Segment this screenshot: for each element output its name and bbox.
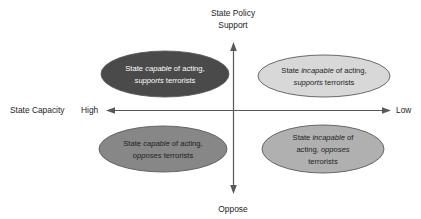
quadrant-top-right[interactable]: State incapable of acting, supports terr… xyxy=(258,55,390,97)
vertical-axis-arrow-up-icon xyxy=(230,42,237,51)
top-axis-title-line1: State Policy xyxy=(211,8,256,18)
quadrant-diagram: State Policy Support Oppose State Capaci… xyxy=(0,0,421,219)
quadrant-bottom-left-line-2: opposes terrorists xyxy=(133,151,194,160)
horizontal-axis-right-end-label: Low xyxy=(396,105,412,115)
quadrant-bottom-left-ellipse[interactable] xyxy=(99,126,227,172)
quadrant-bottom-right-line-1: State incapable of xyxy=(293,133,355,142)
diagram-canvas: State Policy Support Oppose State Capaci… xyxy=(0,0,421,219)
quadrant-bottom-right[interactable]: State incapable of acting, opposes terro… xyxy=(262,125,384,173)
quadrant-bottom-right-line-2: acting, opposes xyxy=(296,145,349,154)
quadrant-bottom-left[interactable]: State capable of acting, opposes terrori… xyxy=(99,126,227,172)
vertical-axis xyxy=(230,42,237,194)
quadrant-top-left[interactable]: State capable of acting, supports terror… xyxy=(101,51,229,97)
vertical-axis-arrow-down-icon xyxy=(230,185,237,194)
quadrant-bottom-right-line-3: terrorists xyxy=(308,157,338,166)
bottom-axis-title: Oppose xyxy=(218,204,248,214)
quadrant-top-right-line-1: State incapable of acting, xyxy=(281,66,366,75)
quadrant-top-left-line-2: supports terrorists xyxy=(135,76,196,85)
horizontal-axis xyxy=(106,107,391,114)
horizontal-axis-arrow-right-icon xyxy=(382,107,391,114)
quadrant-top-right-ellipse[interactable] xyxy=(258,55,390,97)
quadrant-top-left-line-1: State capable of acting, xyxy=(125,64,204,73)
quadrant-bottom-left-line-1: State capable of acting, xyxy=(123,139,202,148)
horizontal-axis-name: State Capacity xyxy=(10,105,65,115)
quadrant-top-right-line-2: supports terrorists xyxy=(294,78,355,87)
horizontal-axis-arrow-left-icon xyxy=(106,107,115,114)
quadrant-top-left-ellipse[interactable] xyxy=(101,51,229,97)
horizontal-axis-left-end-label: High xyxy=(81,105,99,115)
top-axis-title-line2: Support xyxy=(218,20,248,30)
